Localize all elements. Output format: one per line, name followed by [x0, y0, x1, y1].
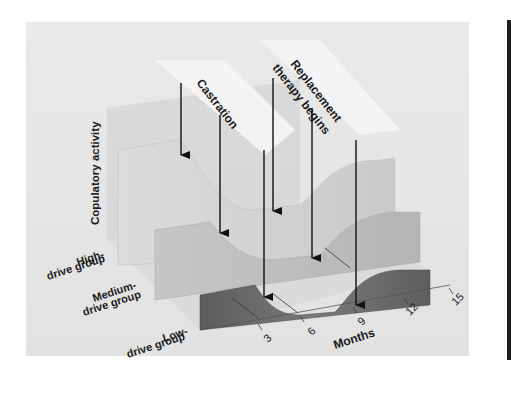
- y-axis-label: Copulatory activity: [89, 121, 101, 225]
- chart-figure: Castration Replacement therapy begins Co…: [0, 0, 511, 398]
- page-edge-bar: [507, 20, 511, 360]
- chart-canvas: Castration Replacement therapy begins Co…: [0, 0, 511, 398]
